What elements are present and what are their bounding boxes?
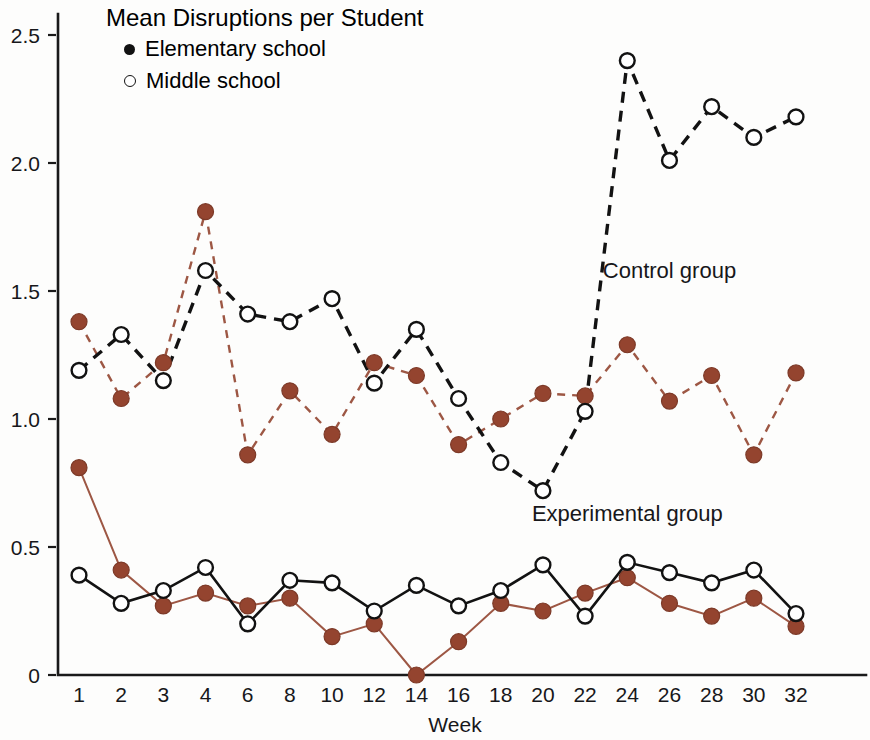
data-point — [451, 391, 466, 406]
chart-figure: 00.51.01.52.02.5123468101214161820222426… — [0, 0, 870, 740]
x-tick-label: 3 — [158, 683, 170, 706]
y-tick-label: 0 — [28, 664, 40, 687]
x-tick-label: 14 — [405, 683, 429, 706]
x-tick-label: 6 — [242, 683, 254, 706]
data-point — [72, 363, 87, 378]
data-point — [746, 130, 761, 145]
data-point — [198, 263, 213, 278]
data-point — [704, 608, 720, 624]
data-point — [662, 153, 677, 168]
x-tick-label: 18 — [489, 683, 512, 706]
chart-annotation: Control group — [603, 258, 736, 283]
data-point — [114, 596, 129, 611]
data-point — [789, 110, 804, 125]
data-point — [746, 447, 762, 463]
data-series-layer — [71, 53, 804, 683]
data-point — [451, 598, 466, 613]
data-point — [451, 634, 467, 650]
y-tick-label: 2.5 — [11, 24, 40, 47]
series-line — [79, 212, 796, 455]
x-axis-title: Week — [428, 713, 482, 736]
data-point — [325, 575, 340, 590]
x-tick-label: 8 — [284, 683, 296, 706]
data-point — [536, 558, 551, 573]
x-tick-label: 4 — [200, 683, 212, 706]
labels-layer: Control groupExperimental group — [532, 258, 736, 526]
data-point — [114, 327, 129, 342]
x-tick-label: 16 — [447, 683, 470, 706]
data-series — [79, 562, 796, 623]
x-tick-label: 24 — [616, 683, 640, 706]
data-point — [536, 483, 551, 498]
data-point — [408, 667, 424, 683]
x-tick-label: 32 — [784, 683, 807, 706]
series-line — [79, 562, 796, 623]
data-point — [156, 583, 171, 598]
y-tick-label: 2.0 — [11, 152, 40, 175]
data-point — [704, 367, 720, 383]
data-point — [704, 99, 719, 114]
legend-label-middle: Middle school — [146, 68, 281, 94]
data-point — [704, 575, 719, 590]
data-point — [789, 606, 804, 621]
x-tick-label: 12 — [363, 683, 386, 706]
data-point — [746, 563, 761, 578]
data-point — [788, 365, 804, 381]
data-point — [662, 565, 677, 580]
data-point — [113, 562, 129, 578]
series-line — [79, 468, 796, 675]
y-tick-label: 0.5 — [11, 536, 40, 559]
data-point — [493, 455, 508, 470]
data-point — [198, 585, 214, 601]
data-point — [240, 447, 256, 463]
data-point — [493, 583, 508, 598]
data-point — [746, 590, 762, 606]
data-point — [451, 437, 467, 453]
data-point — [577, 388, 593, 404]
data-point — [366, 355, 382, 371]
data-point — [155, 598, 171, 614]
data-point — [367, 604, 382, 619]
y-tick-label: 1.5 — [11, 280, 40, 303]
data-point — [72, 568, 87, 583]
x-tick-label: 26 — [658, 683, 681, 706]
data-point — [198, 204, 214, 220]
data-point — [409, 322, 424, 337]
data-point — [324, 426, 340, 442]
axis-spine — [58, 14, 866, 675]
x-tick-label: 1 — [73, 683, 85, 706]
data-point — [282, 573, 297, 588]
open-circle-icon — [124, 75, 136, 87]
x-tick-label: 28 — [700, 683, 723, 706]
data-point — [240, 598, 256, 614]
data-point — [325, 291, 340, 306]
data-point — [661, 393, 677, 409]
data-point — [282, 314, 297, 329]
data-point — [619, 570, 635, 586]
data-series — [79, 468, 796, 675]
data-point — [619, 337, 635, 353]
x-tick-label: 2 — [115, 683, 127, 706]
legend-label-elementary: Elementary school — [145, 36, 326, 62]
x-tick-label: 30 — [742, 683, 765, 706]
data-point — [367, 376, 382, 391]
x-tick-label: 22 — [573, 683, 596, 706]
y-tick-label: 1.0 — [11, 408, 40, 431]
data-point — [240, 616, 255, 631]
page-title: Mean Disruptions per Student — [106, 4, 424, 32]
data-point — [620, 555, 635, 570]
axes: 00.51.01.52.02.5123468101214161820222426… — [11, 14, 866, 736]
filled-circle-icon — [124, 44, 135, 55]
data-point — [493, 411, 509, 427]
data-point — [535, 385, 551, 401]
data-series — [79, 212, 796, 455]
data-point — [113, 391, 129, 407]
data-point — [240, 307, 255, 322]
chart-annotation: Experimental group — [532, 501, 723, 526]
data-point — [324, 629, 340, 645]
data-point — [620, 53, 635, 68]
data-point — [578, 609, 593, 624]
data-point — [577, 585, 593, 601]
data-point — [578, 404, 593, 419]
data-point — [408, 367, 424, 383]
